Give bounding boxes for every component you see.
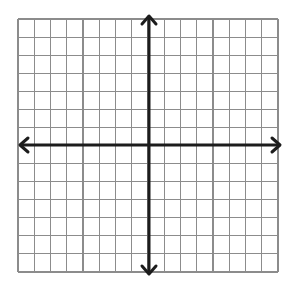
coordinate-plane — [0, 0, 293, 294]
